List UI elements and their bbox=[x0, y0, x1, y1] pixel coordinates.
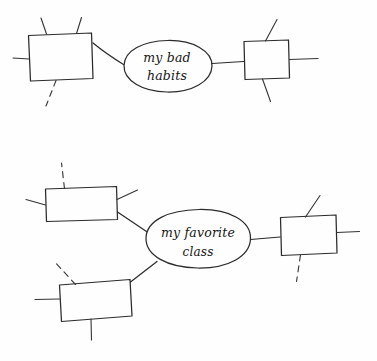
upper-right-box-stub-right bbox=[290, 59, 319, 60]
lower-upper-left-box-dashed-top bbox=[62, 163, 65, 189]
hand-drawn-diagram: my bad habits my favorite class bbox=[0, 0, 377, 361]
lower-concept-map: my favorite class bbox=[26, 163, 360, 340]
lower-right-box-stub-top bbox=[306, 196, 321, 218]
lower-right-box-stub-right bbox=[337, 232, 360, 233]
upper-left-box[interactable] bbox=[29, 33, 94, 81]
upper-center-ellipse[interactable] bbox=[124, 40, 212, 92]
lower-connector-upper-left bbox=[118, 212, 147, 232]
lower-bottom-left-box-dashed-topleft bbox=[54, 261, 76, 285]
lower-connector-right bbox=[251, 237, 281, 240]
upper-right-box-stub-bottom bbox=[263, 79, 271, 102]
upper-center-label-line2: habits bbox=[147, 68, 187, 83]
lower-bottom-left-box-stub-bottom bbox=[91, 319, 92, 340]
sketch-canvas: my bad habits my favorite class bbox=[0, 0, 377, 361]
lower-right-box-dashed-bottom bbox=[297, 255, 301, 282]
lower-right-box[interactable] bbox=[281, 215, 338, 256]
upper-left-box-stub-top-b bbox=[77, 18, 82, 34]
upper-connector-right bbox=[212, 62, 244, 64]
lower-bottom-left-box-stub-left bbox=[35, 299, 60, 300]
lower-bottom-left-box[interactable] bbox=[60, 280, 133, 322]
upper-connector-left bbox=[93, 43, 124, 65]
upper-right-box[interactable] bbox=[244, 40, 290, 80]
upper-center-label-line1: my bad bbox=[143, 50, 191, 65]
lower-center-label-line2: class bbox=[182, 245, 213, 259]
lower-upper-left-box-stub-left bbox=[26, 200, 46, 206]
upper-left-box-stub-top-a bbox=[41, 18, 47, 34]
upper-left-box-dashed-bottom bbox=[46, 81, 56, 107]
upper-right-box-stub-top bbox=[266, 20, 278, 42]
upper-left-box-stub-left bbox=[13, 58, 29, 59]
lower-upper-left-box[interactable] bbox=[46, 187, 118, 222]
upper-concept-map: my bad habits bbox=[13, 18, 318, 107]
lower-upper-left-box-stub-upright bbox=[117, 190, 138, 200]
lower-connector-bottom-left bbox=[131, 262, 158, 283]
lower-center-label-line1: my favorite bbox=[161, 225, 235, 240]
